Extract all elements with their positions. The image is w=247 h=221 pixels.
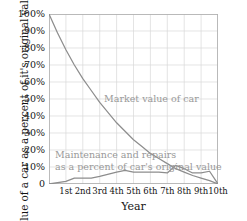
plot-svg xyxy=(49,14,218,184)
y-tick-label: 50% xyxy=(1,94,45,104)
y-tick-label: 60% xyxy=(1,77,45,87)
y-tick-label: 90% xyxy=(1,26,45,36)
gridlines xyxy=(49,14,218,184)
y-tick-label: 80% xyxy=(1,43,45,53)
y-axis-tick-labels: 010%20%30%40%50%60%70%80%90%100% xyxy=(0,14,45,184)
x-axis-tick-labels: 1st2nd3rd4th5th6th7th8th9th10th xyxy=(49,186,218,200)
y-tick-label: 0 xyxy=(1,179,45,189)
x-tick-label: 10th xyxy=(203,186,233,197)
y-tick-label: 10% xyxy=(1,162,45,172)
y-tick-label: 20% xyxy=(1,145,45,155)
y-tick-label: 30% xyxy=(1,128,45,138)
chart-figure: Value of a car as a percent of it's orig… xyxy=(0,0,247,221)
y-tick-label: 70% xyxy=(1,60,45,70)
plot-area xyxy=(49,14,218,184)
y-tick-label: 100% xyxy=(1,9,45,19)
x-axis-title: Year xyxy=(49,200,218,213)
y-tick-label: 40% xyxy=(1,111,45,121)
